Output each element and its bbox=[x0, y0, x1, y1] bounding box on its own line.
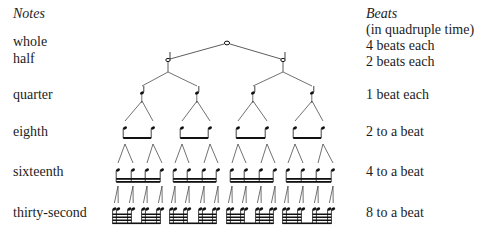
branch-line bbox=[295, 144, 303, 163]
branch-line bbox=[200, 186, 204, 203]
thirty-second-group-beam bbox=[170, 223, 217, 225]
thirty-second-beam bbox=[142, 214, 161, 216]
branch-line bbox=[197, 101, 210, 121]
branch-line bbox=[261, 144, 267, 163]
sixteenth-beam bbox=[230, 178, 273, 180]
sixteenth-beam bbox=[173, 178, 216, 180]
branch-line bbox=[232, 144, 238, 163]
thirty-second-beam bbox=[256, 214, 274, 216]
thirty-second-beam bbox=[256, 217, 274, 219]
whole-note-icon bbox=[224, 41, 229, 45]
branch-line bbox=[312, 101, 323, 121]
branch-line bbox=[253, 72, 283, 86]
branch-line bbox=[175, 144, 182, 163]
thirty-second-beam bbox=[313, 217, 332, 219]
branch-line bbox=[142, 101, 153, 121]
sixteenth-beam bbox=[286, 181, 331, 183]
branch-line bbox=[238, 144, 246, 163]
branch-line bbox=[283, 72, 312, 86]
thirty-second-beam bbox=[313, 214, 332, 216]
branch-line bbox=[210, 144, 218, 163]
thirty-second-beam bbox=[170, 217, 188, 219]
eighth-beam bbox=[293, 137, 321, 139]
half-note-icon bbox=[281, 58, 285, 61]
branch-line bbox=[299, 186, 303, 203]
branch-line bbox=[295, 101, 312, 121]
branch-line bbox=[323, 144, 333, 163]
branch-line bbox=[204, 144, 210, 163]
thirty-second-beam bbox=[227, 217, 245, 219]
thirty-second-beam bbox=[199, 217, 217, 219]
branch-line bbox=[147, 144, 153, 163]
sixteenth-beam bbox=[116, 181, 160, 183]
branch-line bbox=[242, 186, 246, 203]
thirty-second-beam bbox=[199, 220, 217, 222]
branch-line bbox=[168, 72, 197, 86]
branch-line bbox=[170, 44, 224, 59]
thirty-second-beam bbox=[283, 217, 302, 219]
branch-line bbox=[253, 101, 267, 121]
branch-line bbox=[129, 186, 133, 203]
branch-line bbox=[257, 186, 261, 203]
branch-line bbox=[288, 144, 295, 163]
branch-line bbox=[185, 186, 189, 203]
branch-line bbox=[125, 101, 142, 121]
branch-line bbox=[143, 186, 147, 203]
branch-line bbox=[228, 186, 232, 203]
eighth-beam bbox=[180, 137, 208, 139]
thirty-second-beam bbox=[113, 220, 132, 222]
thirty-second-beam bbox=[283, 220, 302, 222]
branch-line bbox=[230, 44, 281, 59]
branch-line bbox=[182, 144, 189, 163]
thirty-second-beam bbox=[170, 214, 188, 216]
thirty-second-beam bbox=[199, 214, 217, 216]
sixteenth-beam bbox=[230, 181, 273, 183]
branch-line bbox=[238, 101, 253, 121]
branch-line bbox=[284, 186, 288, 203]
branch-line bbox=[142, 72, 168, 86]
thirty-second-beam bbox=[227, 214, 245, 216]
sixteenth-beam bbox=[116, 178, 160, 180]
eighth-beam bbox=[236, 137, 265, 139]
branch-line bbox=[171, 186, 175, 203]
thirty-second-beam bbox=[313, 220, 332, 222]
branch-line bbox=[318, 144, 323, 163]
thirty-second-beam bbox=[142, 217, 161, 219]
thirty-second-group-beam bbox=[113, 223, 161, 225]
branch-line bbox=[125, 144, 133, 163]
branch-line bbox=[182, 101, 197, 121]
branch-line bbox=[271, 186, 275, 203]
thirty-second-beam bbox=[283, 214, 302, 216]
branch-line bbox=[153, 144, 162, 163]
note-value-tree-diagram bbox=[0, 0, 489, 234]
thirty-second-beam bbox=[170, 220, 188, 222]
eighth-beam bbox=[123, 137, 151, 139]
sixteenth-beam bbox=[286, 178, 331, 180]
thirty-second-beam bbox=[227, 220, 245, 222]
branch-line bbox=[114, 186, 118, 203]
thirty-second-beam bbox=[113, 214, 132, 216]
thirty-second-beam bbox=[142, 220, 161, 222]
thirty-second-beam bbox=[256, 220, 274, 222]
branch-line bbox=[329, 186, 333, 203]
branch-line bbox=[267, 144, 275, 163]
branch-line bbox=[314, 186, 318, 203]
sixteenth-beam bbox=[173, 181, 216, 183]
branch-line bbox=[158, 186, 162, 203]
thirty-second-group-beam bbox=[227, 223, 274, 225]
half-note-icon bbox=[166, 58, 170, 61]
thirty-second-group-beam bbox=[283, 223, 332, 225]
branch-line bbox=[118, 144, 125, 163]
branch-line bbox=[214, 186, 218, 203]
thirty-second-beam bbox=[113, 217, 132, 219]
